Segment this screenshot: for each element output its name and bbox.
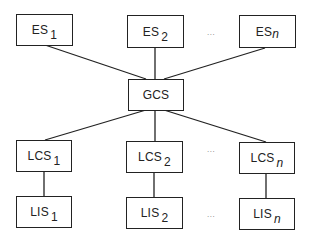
edge-gcs-lcs1 (45, 110, 146, 140)
node-label: LIS (141, 206, 160, 220)
ellipsis-lis: ... (207, 210, 215, 219)
ellipsis-es: ... (207, 28, 215, 37)
node-label: ES (143, 25, 159, 39)
node-subscript: n (277, 156, 284, 170)
node-lcs2: LCS2 (126, 141, 183, 173)
node-label: GCS (143, 88, 170, 102)
node-lisn: LISn (239, 198, 295, 230)
node-label: LCS (138, 150, 162, 164)
node-es1: ES1 (16, 14, 73, 46)
edge-es1-gcs (45, 45, 146, 79)
node-subscript: 1 (50, 28, 57, 42)
node-subscript: n (274, 212, 281, 226)
node-esn: ESn (239, 15, 296, 48)
node-lis2: LIS2 (126, 197, 183, 229)
node-label: LCS (28, 149, 52, 163)
ellipsis-lcs: ... (207, 145, 215, 154)
node-label: LIS (253, 207, 272, 221)
node-label: ES (32, 23, 48, 37)
node-gcs: GCS (128, 79, 184, 111)
node-subscript: 2 (161, 30, 168, 44)
node-subscript: 2 (164, 155, 171, 169)
edge-esn-gcs (164, 48, 265, 79)
node-label: ES (256, 25, 272, 39)
node-lcs1: LCS1 (16, 140, 72, 172)
node-subscript: n (272, 27, 279, 41)
node-lcsn: LCSn (239, 142, 295, 174)
node-subscript: 2 (161, 211, 168, 225)
node-label: LIS (30, 205, 49, 219)
node-subscript: 1 (51, 210, 58, 224)
edge-gcs-lcsn (164, 110, 266, 142)
node-lis1: LIS1 (16, 196, 72, 228)
node-subscript: 1 (54, 154, 61, 168)
node-es2: ES2 (127, 15, 184, 48)
node-label: LCS (251, 151, 275, 165)
